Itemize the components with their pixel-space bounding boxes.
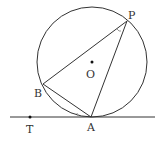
angle-mark-a	[77, 113, 78, 117]
label-t: T	[26, 123, 34, 136]
segment-pa	[91, 21, 127, 117]
segment-ba	[43, 84, 91, 117]
label-b: B	[34, 87, 42, 100]
label-p: P	[128, 9, 136, 22]
point-dot-t	[29, 116, 32, 119]
geometry-diagram: P O B A T	[0, 0, 163, 141]
angle-mark-p	[117, 29, 121, 31]
segment-pb	[43, 21, 127, 84]
center-dot-o	[91, 61, 94, 64]
label-o: O	[86, 68, 95, 81]
label-a: A	[86, 121, 96, 134]
